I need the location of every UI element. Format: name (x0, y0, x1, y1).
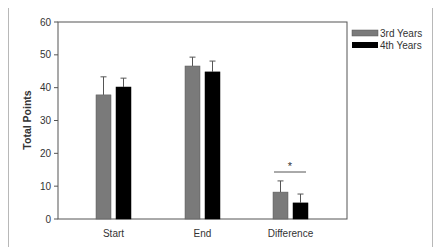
bar-start-3rd-years (96, 95, 111, 219)
bar-difference-4th-years (293, 203, 308, 219)
significance-annotation: * (274, 160, 306, 172)
bar-start-4th-years (116, 87, 131, 219)
y-tick-label: 60 (40, 17, 52, 28)
x-label-end: End (194, 228, 212, 239)
y-tick-label: 0 (45, 214, 51, 225)
y-tick-label: 30 (40, 115, 52, 126)
legend-label-3rd-years: 3rd Years (380, 28, 422, 39)
x-label-difference: Difference (268, 228, 314, 239)
y-tick-label: 10 (40, 181, 52, 192)
y-tick-label: 50 (40, 49, 52, 60)
legend-label-4th-years: 4th Years (380, 40, 422, 51)
y-axis-title: Total Points (21, 90, 33, 149)
x-label-start: Start (103, 228, 124, 239)
y-tick-label: 20 (40, 148, 52, 159)
bar-end-4th-years (205, 72, 220, 219)
bars (96, 57, 308, 219)
bar-end-3rd-years (185, 66, 200, 219)
legend-swatch-3rd-years (352, 30, 378, 36)
bar-difference-3rd-years (273, 192, 288, 219)
x-axis-labels: StartEndDifference (103, 228, 314, 239)
y-tick-label: 40 (40, 82, 52, 93)
legend: 3rd Years 4th Years (352, 28, 422, 51)
significance-star: * (288, 160, 293, 172)
bar-chart: 0102030405060 StartEndDifference Total P… (0, 0, 438, 247)
legend-swatch-4th-years (352, 42, 378, 48)
y-axis: 0102030405060 (40, 17, 58, 225)
